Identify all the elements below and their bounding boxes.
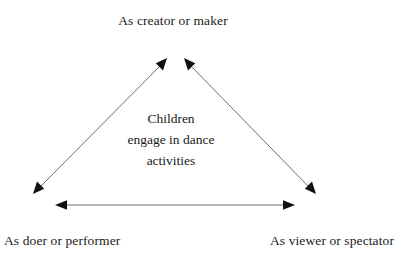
center-caption: Children engage in dance activities — [95, 108, 247, 171]
center-caption-line-1: Children — [95, 108, 247, 129]
bottom-horizontal-arrowhead-right — [283, 200, 295, 210]
bottom-horizontal-arrow — [55, 200, 295, 210]
vertex-label-creator: As creator or maker — [0, 14, 346, 28]
center-caption-line-3: activities — [95, 150, 247, 171]
vertex-label-doer: As doer or performer — [4, 234, 120, 248]
right-diagonal-arrowhead-bottom — [305, 182, 316, 194]
bottom-horizontal-arrowhead-left — [55, 200, 67, 210]
center-caption-line-2: engage in dance — [95, 129, 247, 150]
left-diagonal-arrowhead-bottom — [33, 182, 44, 194]
vertex-label-viewer: As viewer or spectator — [270, 234, 394, 248]
